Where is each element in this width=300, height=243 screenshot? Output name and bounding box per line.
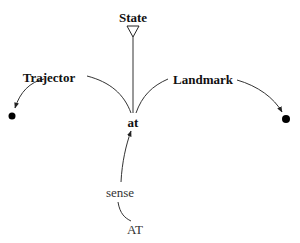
diagram-canvas (0, 0, 300, 243)
node-at-upper: AT (127, 223, 143, 236)
trajector-dot-icon (9, 113, 16, 120)
sense-edge-lower (118, 202, 131, 221)
state-connector (127, 26, 139, 113)
node-sense: sense (106, 186, 134, 199)
node-landmark: Landmark (173, 73, 233, 86)
node-state: State (119, 11, 147, 24)
node-at: at (128, 116, 139, 129)
landmark-edge-tail (237, 80, 282, 112)
node-trajector: Trajector (23, 71, 75, 84)
sense-edge-upper (121, 131, 131, 182)
landmark-dot-icon (282, 115, 290, 123)
triangle-icon (127, 26, 139, 37)
trajector-edge-arrow (9, 78, 15, 110)
trajector-edge (87, 76, 131, 113)
landmark-edge (136, 79, 168, 113)
